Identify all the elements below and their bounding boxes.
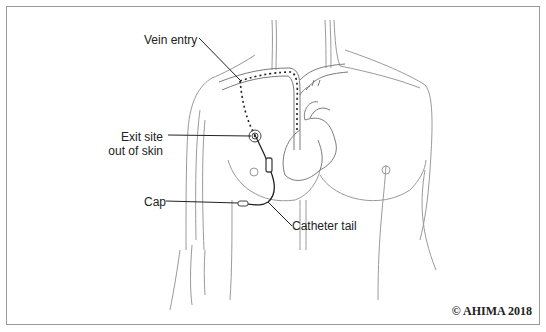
label-exit-site: Exit site out of skin xyxy=(105,130,163,158)
catheter-cap xyxy=(238,201,248,206)
label-exit-site-line1: Exit site xyxy=(105,130,163,144)
label-cap: Cap xyxy=(144,195,166,209)
label-exit-site-line2: out of skin xyxy=(105,144,163,158)
vein-and-heart-outline xyxy=(219,64,348,180)
chest-anatomy-illustration xyxy=(0,0,546,332)
copyright-notice: © AHIMA 2018 xyxy=(452,304,532,319)
label-catheter-tail: Catheter tail xyxy=(292,219,357,233)
label-vein-entry: Vein entry xyxy=(144,33,197,47)
catheter-path-dotted xyxy=(240,72,297,135)
leader-lines xyxy=(166,38,292,226)
body-outline xyxy=(170,20,436,310)
